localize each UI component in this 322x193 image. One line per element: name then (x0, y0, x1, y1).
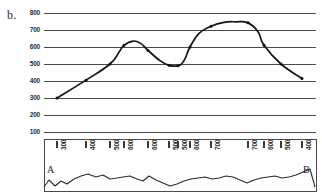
x-tick-label-7: 600 (193, 140, 200, 150)
topographic-profile-figure: b. 800700600500400300200100 300400500600… (0, 0, 322, 193)
data-point-marker (280, 63, 283, 66)
data-point-marker (109, 63, 112, 66)
y-tick-label-500: 500 (18, 60, 40, 67)
cross-section-panel (44, 139, 316, 191)
x-tick-label-12: 400 (305, 140, 312, 150)
x-tick-label-5: 500 (172, 140, 179, 150)
data-point-marker (168, 64, 171, 67)
data-point-marker (301, 77, 304, 80)
data-point-marker (247, 21, 250, 24)
x-tick-label-11: 500 (284, 140, 291, 150)
x-tick-label-3: 600 (127, 140, 134, 150)
x-tick-label-9: 700 (251, 140, 258, 150)
data-point-marker (210, 25, 213, 28)
y-tick-label-400: 400 (18, 77, 40, 84)
x-tick-label-4: 600 (151, 140, 158, 150)
data-point-marker (85, 79, 88, 82)
y-tick-label-300: 300 (18, 94, 40, 101)
x-tick-label-1: 400 (89, 140, 96, 150)
endpoint-label-a: A (47, 164, 54, 175)
y-tick-label-200: 200 (18, 111, 40, 118)
gridlines-group (44, 13, 316, 132)
x-tick-label-2: 500 (113, 140, 120, 150)
terrain-cross-section-line (44, 169, 315, 187)
x-tick-label-0: 300 (60, 140, 67, 150)
endpoint-label-b: B (303, 164, 310, 175)
elevation-profile-line (57, 22, 302, 98)
x-tick-label-10: 600 (267, 140, 274, 150)
y-tick-label-700: 700 (18, 26, 40, 33)
data-point-marker (263, 44, 266, 47)
x-tick-label-8: 700 (214, 140, 221, 150)
elevation-curve-group (57, 22, 302, 98)
data-point-markers (56, 21, 304, 99)
data-point-marker (177, 64, 180, 67)
data-point-marker (147, 49, 150, 52)
y-tick-label-800: 800 (18, 9, 40, 16)
data-point-marker (189, 46, 192, 49)
y-tick-label-600: 600 (18, 43, 40, 50)
y-tick-label-100: 100 (18, 128, 40, 135)
data-point-marker (56, 97, 59, 100)
data-point-marker (123, 44, 126, 47)
x-tick-label-6: 500 (181, 140, 188, 150)
